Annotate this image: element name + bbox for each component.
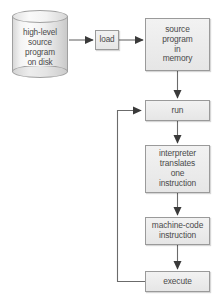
node-machine-code-instruction: machine-code instruction — [145, 217, 210, 245]
node-execute: execute — [145, 271, 210, 292]
node-load: load — [95, 30, 119, 50]
edge-execute-loop-back-to-run — [118, 111, 146, 282]
cylinder-top-ellipse — [12, 10, 68, 23]
interpreter-flow-diagram: high-level source program on disk load s… — [0, 0, 220, 308]
node-source-program-in-memory: source program in memory — [145, 18, 210, 71]
node-disk-cylinder: high-level source program on disk — [12, 10, 68, 78]
node-interpreter-translates-one-instruction: interpreter translates one instruction — [145, 145, 210, 193]
node-source-program-in-memory-label: source program in memory — [146, 25, 209, 65]
node-load-label: load — [96, 35, 118, 45]
node-machine-code-label: machine-code instruction — [146, 221, 209, 241]
node-disk-label: high-level source program on disk — [12, 28, 68, 67]
node-interpreter-label: interpreter translates one instruction — [146, 149, 209, 189]
node-execute-label: execute — [146, 277, 209, 287]
node-run-label: run — [146, 106, 209, 116]
node-run: run — [145, 100, 210, 121]
